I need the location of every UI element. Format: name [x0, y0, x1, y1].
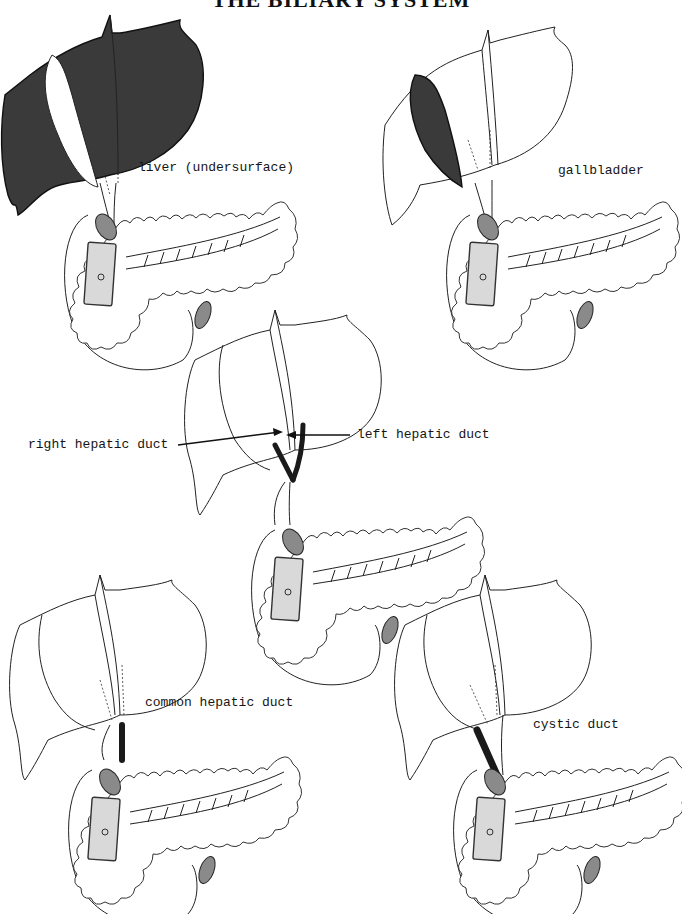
- label-right-hepatic-duct: right hepatic duct: [28, 437, 168, 452]
- label-cystic-duct: cystic duct: [533, 717, 619, 732]
- label-liver: liver (undersurface): [138, 160, 294, 175]
- label-left-hepatic-duct: left hepatic duct: [357, 427, 490, 442]
- pancreas-duodenum: [69, 757, 302, 914]
- liver-shaded: [2, 15, 204, 215]
- cystic-duct: [477, 730, 497, 775]
- page-title: THE BILIARY SYSTEM: [0, 0, 682, 13]
- common-hepatic-duct-diagram: [0, 565, 340, 914]
- label-gallbladder: gallbladder: [558, 163, 644, 178]
- label-common-hepatic-duct: common hepatic duct: [145, 695, 293, 710]
- pancreas-duodenum: [454, 757, 682, 914]
- cystic-duct-diagram: [385, 565, 682, 914]
- panel-cystic-duct: cystic duct: [385, 565, 682, 914]
- panel-common-hepatic-duct: common hepatic duct: [0, 565, 340, 914]
